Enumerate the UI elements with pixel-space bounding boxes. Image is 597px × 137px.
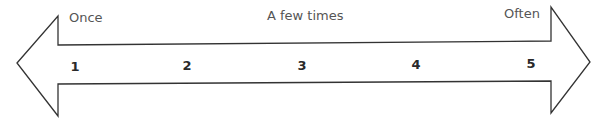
label-a-few-times: A few times <box>267 9 344 22</box>
label-once: Once <box>69 11 103 24</box>
scale-point-3: 3 <box>297 59 306 72</box>
scale-point-5: 5 <box>526 57 535 70</box>
scale-point-4: 4 <box>411 58 420 71</box>
scale-point-2: 2 <box>182 59 191 72</box>
label-often: Often <box>504 7 540 20</box>
scale-point-1: 1 <box>70 60 79 73</box>
